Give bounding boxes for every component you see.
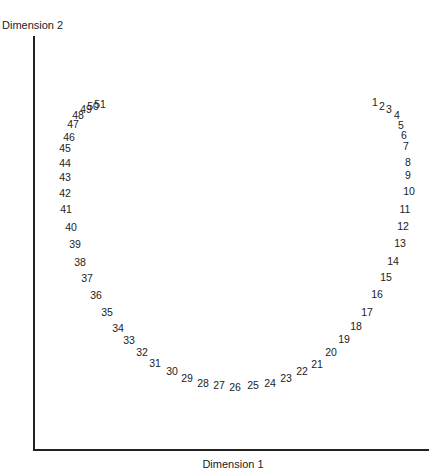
data-point-label: 34	[112, 323, 124, 334]
data-point-label: 24	[264, 378, 276, 389]
data-point-label: 22	[296, 366, 308, 377]
data-point-label: 3	[386, 104, 392, 115]
data-point-label: 35	[101, 307, 113, 318]
data-point-label: 33	[123, 335, 135, 346]
data-point-label: 18	[350, 321, 362, 332]
data-point-label: 2	[379, 101, 385, 112]
data-point-label: 36	[90, 290, 102, 301]
data-point-label: 8	[405, 157, 411, 168]
data-point-label: 46	[63, 132, 75, 143]
data-point-label: 11	[400, 204, 411, 215]
data-point-label: 12	[397, 221, 409, 232]
data-point-label: 40	[65, 222, 77, 233]
data-point-label: 13	[394, 238, 406, 249]
data-point-label: 44	[59, 158, 71, 169]
data-point-label: 45	[59, 143, 71, 154]
y-axis-label: Dimension 2	[2, 19, 63, 31]
scatter-chart: Dimension 2 Dimension 1 1234567891011121…	[0, 0, 438, 474]
data-point-label: 51	[94, 99, 106, 110]
data-point-label: 31	[149, 358, 161, 369]
y-axis-line	[33, 36, 35, 450]
data-point-label: 10	[403, 186, 415, 197]
data-point-label: 20	[325, 347, 337, 358]
data-point-label: 39	[69, 239, 81, 250]
data-point-label: 28	[197, 378, 209, 389]
data-point-label: 27	[213, 380, 225, 391]
data-point-label: 29	[181, 373, 193, 384]
data-point-label: 7	[403, 141, 409, 152]
data-point-label: 43	[59, 172, 71, 183]
data-point-label: 1	[372, 97, 378, 108]
data-point-label: 14	[387, 256, 399, 267]
data-point-label: 32	[136, 347, 148, 358]
data-point-label: 17	[361, 307, 373, 318]
data-point-label: 25	[247, 380, 259, 391]
data-point-label: 37	[81, 273, 93, 284]
data-point-label: 42	[59, 188, 71, 199]
x-axis-line	[33, 449, 429, 451]
data-point-label: 23	[280, 373, 292, 384]
data-point-label: 41	[60, 204, 72, 215]
data-point-label: 6	[401, 130, 407, 141]
data-point-label: 21	[311, 359, 323, 370]
data-point-label: 15	[380, 272, 392, 283]
data-point-label: 30	[166, 366, 178, 377]
data-point-label: 16	[371, 289, 383, 300]
data-point-label: 38	[74, 257, 86, 268]
data-point-label: 26	[229, 382, 241, 393]
data-point-label: 19	[338, 334, 350, 345]
x-axis-label: Dimension 1	[0, 458, 438, 470]
data-point-label: 9	[405, 170, 411, 181]
